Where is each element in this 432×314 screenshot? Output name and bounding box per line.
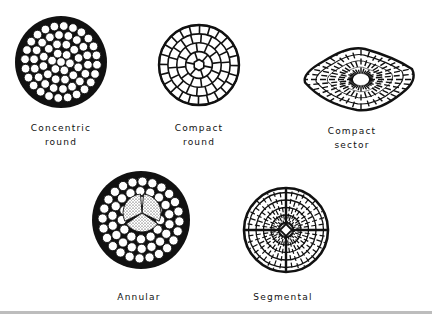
conductor-types-diagram	[0, 0, 432, 314]
label-line: round	[31, 135, 91, 149]
label-line: Concentric	[31, 121, 91, 135]
compact-sector-conductor	[291, 40, 431, 120]
label-line: Compact	[328, 124, 377, 138]
label-compact-round: Compact round	[175, 121, 224, 149]
label-line: Annular	[117, 290, 160, 304]
label-line: round	[175, 135, 224, 149]
label-compact-sector: Compact sector	[328, 124, 377, 152]
segmental-conductor	[244, 188, 328, 272]
label-line: sector	[328, 138, 377, 152]
label-concentric-round: Concentric round	[31, 121, 91, 149]
label-segmental: Segmental	[253, 290, 312, 304]
label-annular: Annular	[117, 290, 160, 304]
annular-conductor	[92, 171, 190, 269]
label-line: Segmental	[253, 290, 312, 304]
concentric-round-conductor	[15, 16, 107, 108]
label-line: Compact	[175, 121, 224, 135]
compact-round-conductor	[159, 25, 239, 105]
